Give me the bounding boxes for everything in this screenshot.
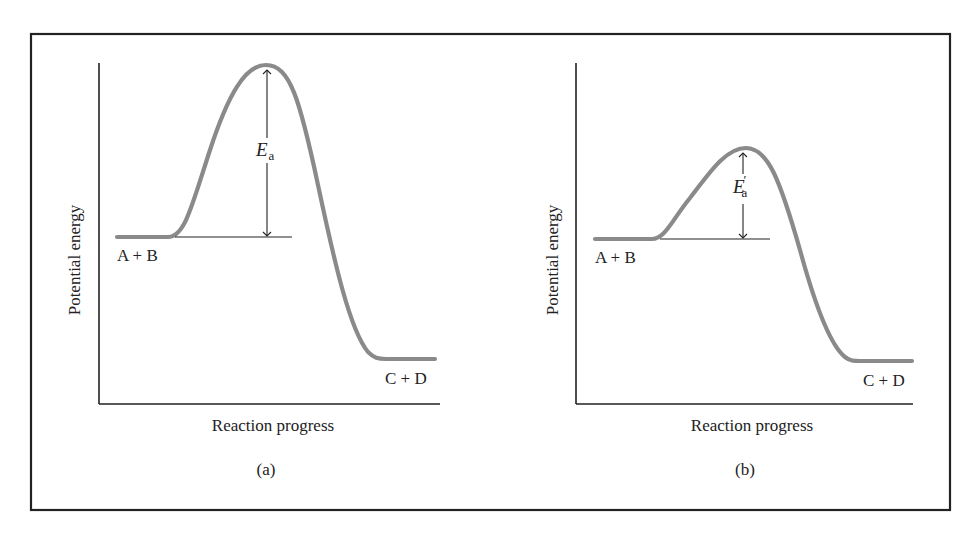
products-label: C + D <box>863 371 905 390</box>
figure-border <box>31 34 950 510</box>
panel-a: Ea A + B C + D Reaction progress Potenti… <box>65 63 440 479</box>
figure-canvas: Ea A + B C + D Reaction progress Potenti… <box>0 0 978 538</box>
energy-curve <box>595 148 912 361</box>
activation-energy-label: Ea <box>255 139 275 163</box>
panel-caption: (b) <box>735 460 755 479</box>
reactants-label: A + B <box>595 248 636 267</box>
x-axis-label: Reaction progress <box>691 416 813 435</box>
y-axis-label: Potential energy <box>65 204 84 315</box>
products-label: C + D <box>385 369 427 388</box>
reactants-label: A + B <box>117 246 158 265</box>
activation-energy-label: E′a <box>732 172 747 200</box>
figure: Ea A + B C + D Reaction progress Potenti… <box>0 0 978 538</box>
panel-b: E′a A + B C + D Reaction progress Potent… <box>543 63 913 479</box>
x-axis-label: Reaction progress <box>212 416 334 435</box>
y-axis-label: Potential energy <box>543 204 562 315</box>
energy-curve <box>117 65 435 359</box>
panel-caption: (a) <box>257 460 276 479</box>
